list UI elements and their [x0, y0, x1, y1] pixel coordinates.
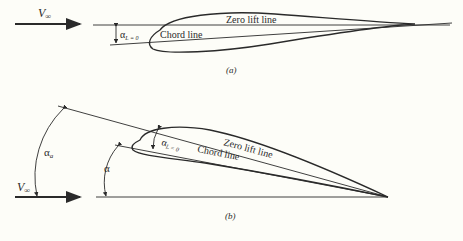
freestream-label-a: V∞: [38, 6, 51, 21]
freestream-label-b: V∞: [17, 180, 30, 195]
caption-b: (b): [225, 211, 236, 221]
alpha-l0-label-a: αL = 0: [120, 29, 139, 41]
airfoil-angle-diagram: V∞ αL = 0 Zero lift line Chord line (a) …: [0, 0, 463, 241]
panel-b: V∞ αa α αL = 0 Zero lift line Chord line…: [15, 106, 388, 221]
zero-lift-text-a: Zero lift line: [226, 14, 277, 25]
alpha-label: α: [104, 162, 110, 174]
alpha-a-label: αa: [44, 146, 54, 160]
panel-a: V∞ αL = 0 Zero lift line Chord line (a): [15, 6, 452, 75]
chord-text-a: Chord line: [160, 29, 203, 40]
caption-a: (a): [226, 65, 237, 75]
